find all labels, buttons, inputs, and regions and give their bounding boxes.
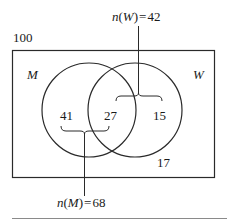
w-brace bbox=[116, 26, 162, 101]
venn-diagram: n(W)=42 100 M W 41 27 15 17 n(M)=68 bbox=[0, 0, 227, 223]
set-m-circle bbox=[42, 63, 136, 157]
n-m-annotation: n(M)=68 bbox=[57, 195, 105, 210]
set-w-label: W bbox=[193, 67, 205, 82]
set-w-circle bbox=[88, 63, 182, 157]
region-only-m-value: 41 bbox=[60, 108, 73, 123]
n-w-annotation: n(W)=42 bbox=[112, 9, 160, 24]
region-neither-value: 17 bbox=[157, 155, 171, 170]
m-brace bbox=[61, 126, 109, 196]
universe-total-label: 100 bbox=[13, 30, 33, 45]
region-both-value: 27 bbox=[104, 108, 118, 123]
set-m-label: M bbox=[26, 67, 39, 82]
region-only-w-value: 15 bbox=[153, 108, 166, 123]
